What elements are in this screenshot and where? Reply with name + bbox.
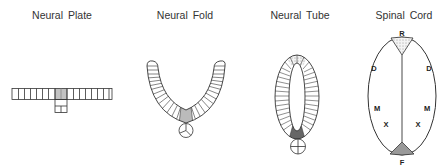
label-dorsal-left: D xyxy=(371,64,377,73)
label-dorsal-right: D xyxy=(426,64,432,73)
label-floor: F xyxy=(400,158,405,167)
roof-plate xyxy=(391,37,413,55)
label-motor-right: M xyxy=(424,104,430,113)
neural-development-diagram: R D D M M X X F xyxy=(0,0,448,167)
label-motor-left: M xyxy=(374,104,380,113)
notochord-circle xyxy=(179,124,193,138)
neural-tube-outer xyxy=(275,55,319,139)
floor-plate-dark xyxy=(289,121,305,139)
neural-plate-figure xyxy=(12,89,112,113)
neural-tube-lumen xyxy=(289,63,305,131)
label-x-left: X xyxy=(383,120,388,129)
neural-tube-figure xyxy=(275,54,319,154)
notochord-circle xyxy=(291,139,306,154)
floor-plate xyxy=(390,142,414,155)
neural-fold-figure xyxy=(145,61,227,138)
spinal-cord-figure: R D D M M X X F xyxy=(368,29,436,167)
notochord-stalk xyxy=(55,100,67,113)
label-x-right: X xyxy=(415,120,420,129)
label-roof: R xyxy=(399,29,405,38)
